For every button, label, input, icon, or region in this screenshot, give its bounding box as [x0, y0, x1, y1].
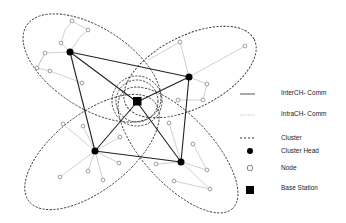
base-station-icon — [133, 97, 142, 106]
node — [86, 169, 90, 173]
inter-ch-links — [70, 52, 189, 162]
node — [101, 178, 105, 182]
node — [80, 81, 84, 85]
node — [178, 40, 182, 44]
node — [48, 69, 52, 73]
legend: InterCH- Comm IntraCH- Comm Cluster Clus… — [240, 89, 327, 194]
node — [154, 162, 158, 166]
legend-base-station-icon — [246, 186, 254, 194]
cluster-head-icon — [67, 49, 74, 56]
cluster-head-icon — [186, 74, 193, 81]
legend-cluster-head-icon — [247, 148, 253, 154]
cluster-heads — [67, 49, 193, 166]
node — [58, 175, 62, 179]
node — [35, 66, 39, 70]
node — [243, 44, 247, 48]
node — [117, 161, 121, 165]
node — [81, 124, 85, 128]
node — [201, 98, 205, 102]
node — [61, 122, 65, 126]
legend-label-cluster-head: Cluster Head — [281, 147, 319, 154]
cluster-boundaries — [5, 0, 271, 223]
cluster-boundary-bottom-left — [6, 73, 179, 223]
node — [205, 168, 209, 172]
legend-label-inter-ch: InterCH- Comm — [281, 89, 327, 96]
node — [118, 135, 122, 139]
node — [70, 19, 74, 23]
node — [205, 82, 209, 86]
node — [191, 142, 195, 146]
cluster-head-icon — [92, 148, 99, 155]
node — [59, 41, 63, 45]
legend-node-icon — [247, 165, 253, 171]
legend-label-cluster: Cluster — [281, 134, 302, 141]
legend-label-node: Node — [281, 164, 297, 171]
cluster-boundary-top-left — [5, 0, 179, 144]
legend-label-intra-ch: IntraCH- Comm — [281, 110, 327, 117]
cluster-head-icon — [178, 159, 185, 166]
node — [43, 51, 47, 55]
wsn-cluster-diagram: InterCH- Comm IntraCH- Comm Cluster Clus… — [0, 0, 346, 223]
cluster-boundary-top-right — [110, 7, 271, 137]
node — [208, 187, 212, 191]
node — [172, 179, 176, 183]
node — [167, 121, 171, 125]
node — [176, 98, 180, 102]
legend-label-base-station: Base Station — [281, 184, 318, 191]
node — [86, 28, 90, 32]
